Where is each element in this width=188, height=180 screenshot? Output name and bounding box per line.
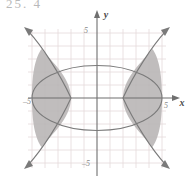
x-tick-label-positive: 5 xyxy=(164,101,168,110)
y-tick-label-positive: 5 xyxy=(84,26,88,35)
y-axis-arrowhead xyxy=(94,10,100,18)
coordinate-plane: 5 –5 5 –5 x y xyxy=(0,0,188,180)
x-tick-label-negative: –5 xyxy=(22,97,31,106)
y-axis-label: y xyxy=(103,9,109,20)
x-axis-label: x xyxy=(179,97,185,108)
figure-root: 25. 4 xyxy=(0,0,188,180)
y-tick-label-negative: –5 xyxy=(81,159,90,168)
